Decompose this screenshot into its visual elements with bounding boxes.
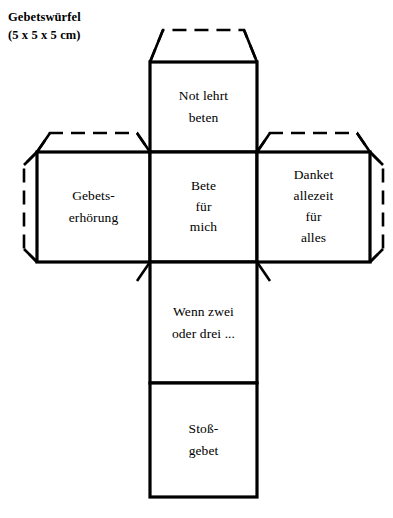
flap-top-right bbox=[257, 133, 370, 152]
face-label-center-line-1: Bete bbox=[191, 176, 216, 197]
face-label-top-line-2: beten bbox=[189, 107, 219, 129]
face-label-bottom-line-1: Stoß- bbox=[189, 418, 219, 440]
face-label-center: Bete für mich bbox=[150, 152, 257, 262]
face-label-center-line-2: für bbox=[195, 197, 211, 218]
diagram-title: Gebetswürfel (5 x 5 x 5 cm) bbox=[8, 8, 81, 44]
diagram-canvas: Gebetswürfel (5 x 5 x 5 cm) Not lehrt be… bbox=[0, 0, 393, 518]
face-label-bottom-line-2: gebet bbox=[189, 440, 219, 462]
face-label-right-line-1: Danket bbox=[294, 165, 334, 186]
flap-top-center bbox=[150, 30, 257, 62]
corner-cut-lower-left bbox=[137, 262, 150, 281]
face-label-lower: Wenn zwei oder drei ... bbox=[150, 262, 257, 383]
face-label-right-line-4: alles bbox=[301, 228, 326, 249]
face-label-top: Not lehrt beten bbox=[150, 62, 257, 152]
flap-top-left bbox=[37, 133, 150, 152]
face-label-lower-line-2: oder drei ... bbox=[172, 323, 235, 345]
face-label-right-line-2: allezeit bbox=[294, 186, 334, 207]
face-label-center-line-3: mich bbox=[190, 217, 217, 238]
flap-side-right bbox=[370, 152, 383, 262]
face-label-left-line-1: Gebets- bbox=[72, 185, 115, 207]
face-label-right: Danket allezeit für alles bbox=[257, 152, 370, 262]
face-label-left-line-2: erhörung bbox=[69, 207, 119, 229]
title-main: Gebetswürfel bbox=[8, 8, 81, 26]
face-label-lower-line-1: Wenn zwei bbox=[173, 301, 234, 323]
corner-cut-lower-right bbox=[257, 262, 270, 281]
face-label-left: Gebets- erhörung bbox=[37, 152, 150, 262]
face-label-right-line-3: für bbox=[305, 207, 321, 228]
flap-side-left bbox=[24, 152, 37, 262]
face-label-top-line-1: Not lehrt bbox=[179, 85, 228, 107]
title-dimensions: (5 x 5 x 5 cm) bbox=[8, 26, 81, 44]
face-label-bottom: Stoß- gebet bbox=[150, 383, 257, 497]
